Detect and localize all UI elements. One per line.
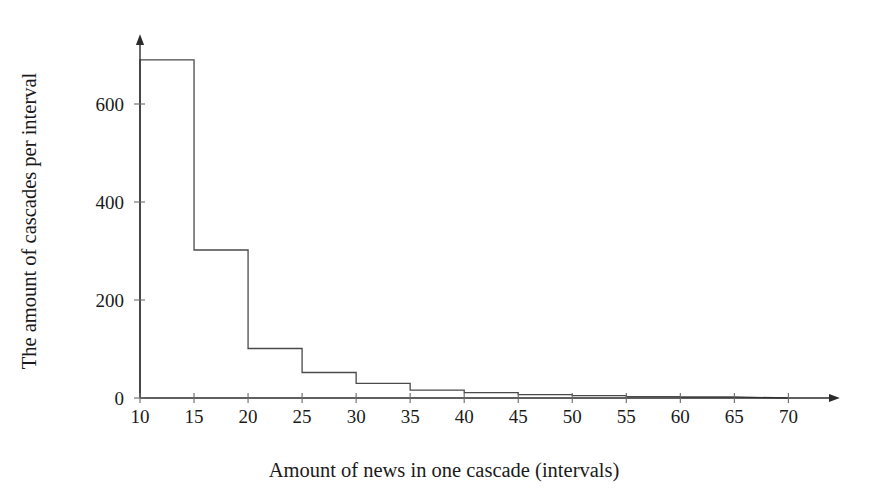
x-tick-label: 60 (671, 406, 690, 427)
y-tick-label: 600 (96, 94, 125, 115)
histogram-plot: 10152025303540455055606570 0200400600 Am… (0, 0, 869, 498)
y-axis-title: The amount of cascades per interval (18, 72, 41, 369)
x-tick-label: 30 (347, 406, 366, 427)
y-tick-label: 200 (96, 290, 125, 311)
x-tick-label: 35 (401, 406, 420, 427)
plot-area (140, 60, 788, 398)
x-tick-label: 65 (725, 406, 744, 427)
x-tick-label: 55 (617, 406, 636, 427)
x-tick-label: 25 (293, 406, 312, 427)
x-tick-label: 45 (509, 406, 528, 427)
chart-container: 10152025303540455055606570 0200400600 Am… (0, 0, 869, 498)
x-tick-label: 20 (239, 406, 258, 427)
y-tick-label: 400 (96, 192, 125, 213)
x-tick-label: 70 (779, 406, 798, 427)
axis-group (140, 44, 830, 398)
y-tick-label: 0 (115, 388, 125, 409)
x-tick-label: 40 (455, 406, 474, 427)
step-histogram-outline (140, 60, 788, 398)
y-axis-ticks: 0200400600 (96, 94, 146, 409)
x-axis-title: Amount of news in one cascade (intervals… (269, 459, 620, 482)
x-tick-label: 15 (185, 406, 204, 427)
x-tick-label: 10 (131, 406, 150, 427)
x-tick-label: 50 (563, 406, 582, 427)
